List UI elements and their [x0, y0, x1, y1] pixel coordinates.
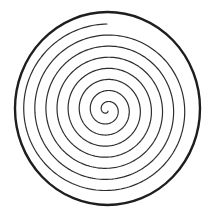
- outer-circle: [15, 12, 200, 205]
- spiral-line: [24, 24, 185, 191]
- spiral-figure: [0, 0, 210, 220]
- spiral-diagram: [0, 0, 210, 220]
